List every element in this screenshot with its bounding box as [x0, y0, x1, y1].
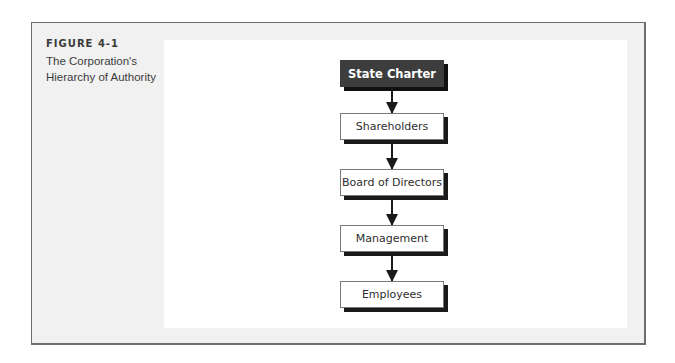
node-management: Management	[340, 225, 444, 252]
arrow-down-icon	[391, 144, 393, 169]
node-employees: Employees	[340, 281, 444, 308]
arrow-down-icon	[391, 88, 393, 113]
arrow-down-icon	[391, 256, 393, 281]
node-state-charter: State Charter	[340, 60, 444, 87]
diagram-panel: State Charter Shareholders Board of Dire…	[164, 40, 627, 328]
node-board-of-directors: Board of Directors	[340, 169, 444, 196]
figure-number: FIGURE 4-1	[46, 37, 166, 51]
node-shareholders: Shareholders	[340, 113, 444, 140]
figure-title: The Corporation's Hierarchy of Authority	[46, 53, 166, 85]
figure-frame: FIGURE 4-1 The Corporation's Hierarchy o…	[31, 22, 646, 345]
figure-caption: FIGURE 4-1 The Corporation's Hierarchy o…	[46, 37, 166, 85]
arrow-down-icon	[391, 200, 393, 225]
